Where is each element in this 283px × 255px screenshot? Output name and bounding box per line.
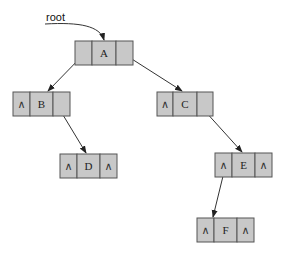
null-symbol: ∧ bbox=[104, 160, 112, 173]
null-symbol: ∧ bbox=[259, 159, 267, 172]
null-symbol: ∧ bbox=[219, 159, 227, 172]
null-symbol: ∧ bbox=[17, 98, 25, 111]
node-a-left-pointer-cell bbox=[75, 41, 92, 65]
null-symbol: ∧ bbox=[161, 98, 169, 111]
tree-node-c: ∧ C bbox=[157, 92, 213, 116]
node-e-label: E bbox=[240, 159, 247, 171]
null-symbol: ∧ bbox=[201, 224, 209, 237]
edge-e-to-f bbox=[213, 172, 224, 217]
tree-node-e: ∧ E ∧ bbox=[215, 153, 272, 177]
null-symbol: ∧ bbox=[64, 160, 72, 173]
null-symbol: ∧ bbox=[241, 224, 249, 237]
node-d-label: D bbox=[85, 160, 93, 172]
node-a-label: A bbox=[100, 47, 108, 59]
node-c-label: C bbox=[181, 98, 188, 110]
node-a-right-pointer-cell bbox=[116, 41, 133, 65]
node-c-right-pointer-cell bbox=[197, 92, 213, 116]
binary-tree-diagram: root A ∧ B ∧ C ∧ D ∧ bbox=[0, 0, 283, 255]
node-b-label: B bbox=[38, 98, 45, 110]
root-label: root bbox=[46, 11, 65, 23]
tree-node-d: ∧ D ∧ bbox=[60, 154, 117, 178]
tree-node-b: ∧ B bbox=[13, 92, 70, 116]
root-pointer-arrow bbox=[45, 24, 104, 40]
node-b-right-pointer-cell bbox=[53, 92, 70, 116]
tree-node-f: ∧ F ∧ bbox=[197, 218, 254, 242]
node-f-label: F bbox=[222, 224, 228, 236]
tree-node-a: A bbox=[75, 41, 133, 65]
